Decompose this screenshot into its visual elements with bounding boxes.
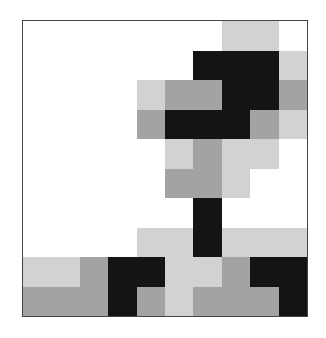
grid-cell (23, 287, 51, 317)
grid-cell (23, 110, 51, 140)
grid-cell (222, 80, 250, 110)
grid-cell (51, 80, 79, 110)
grid-cell (279, 139, 307, 169)
grid-cell (193, 51, 221, 81)
grid-cell (222, 228, 250, 258)
grid-cell (51, 21, 79, 51)
grid-cell (137, 110, 165, 140)
grid-cell (23, 228, 51, 258)
grid-cell (222, 287, 250, 317)
grid-cell (23, 257, 51, 287)
grid-cell (279, 287, 307, 317)
grid-cell (165, 110, 193, 140)
grid-cell (250, 169, 278, 199)
grid-cell (137, 198, 165, 228)
grid-cell (250, 287, 278, 317)
grid-cell (165, 51, 193, 81)
grid-cell (279, 228, 307, 258)
grid-cell (165, 228, 193, 258)
grid-cell (51, 228, 79, 258)
grid-cell (108, 80, 136, 110)
grid-cell (108, 287, 136, 317)
grid-cell (23, 198, 51, 228)
grid-cell (51, 198, 79, 228)
grid-cell (250, 257, 278, 287)
grid-cell (80, 198, 108, 228)
grid-cell (51, 257, 79, 287)
grid-cell (279, 169, 307, 199)
grid-cell (80, 80, 108, 110)
grid-cell (51, 51, 79, 81)
grid-cell (51, 169, 79, 199)
grid-cell (23, 169, 51, 199)
grid-cell (80, 228, 108, 258)
grid-cell (108, 198, 136, 228)
grid-cell (279, 257, 307, 287)
grid-cell (80, 51, 108, 81)
grid-cell (80, 287, 108, 317)
grid-cell (193, 110, 221, 140)
grid-cell (279, 110, 307, 140)
grid-cell (137, 287, 165, 317)
grid-cell (165, 198, 193, 228)
grid-cell (51, 110, 79, 140)
grid-cell (108, 139, 136, 169)
grid-cell (193, 287, 221, 317)
grid-cell (193, 169, 221, 199)
grid-cell (279, 51, 307, 81)
grid-cell (193, 21, 221, 51)
grid-cell (23, 21, 51, 51)
pixel-grid (23, 21, 307, 316)
grid-cell (222, 110, 250, 140)
grid-cell (80, 110, 108, 140)
grid-cell (193, 139, 221, 169)
grid-cell (165, 80, 193, 110)
grid-cell (137, 169, 165, 199)
grid-cell (250, 21, 278, 51)
grid-cell (165, 287, 193, 317)
grid-cell (222, 198, 250, 228)
grid-cell (279, 80, 307, 110)
grid-cell (222, 21, 250, 51)
grid-cell (222, 51, 250, 81)
grid-cell (137, 139, 165, 169)
grid-cell (193, 257, 221, 287)
grid-cell (137, 21, 165, 51)
grid-cell (108, 110, 136, 140)
grid-cell (80, 257, 108, 287)
grid-frame (22, 20, 308, 317)
grid-cell (108, 228, 136, 258)
grid-cell (165, 139, 193, 169)
grid-cell (80, 21, 108, 51)
grid-cell (80, 169, 108, 199)
grid-cell (137, 51, 165, 81)
grid-cell (250, 228, 278, 258)
grid-cell (250, 139, 278, 169)
grid-cell (165, 257, 193, 287)
grid-cell (250, 198, 278, 228)
grid-cell (193, 80, 221, 110)
grid-cell (250, 51, 278, 81)
grid-cell (108, 169, 136, 199)
grid-cell (279, 198, 307, 228)
grid-cell (193, 228, 221, 258)
grid-cell (165, 21, 193, 51)
canvas (0, 0, 326, 338)
grid-cell (165, 169, 193, 199)
grid-cell (23, 51, 51, 81)
grid-cell (108, 21, 136, 51)
grid-cell (222, 169, 250, 199)
grid-cell (51, 287, 79, 317)
grid-cell (23, 80, 51, 110)
grid-cell (137, 257, 165, 287)
grid-cell (250, 110, 278, 140)
grid-cell (108, 257, 136, 287)
grid-cell (222, 139, 250, 169)
grid-cell (193, 198, 221, 228)
grid-cell (51, 139, 79, 169)
grid-cell (137, 228, 165, 258)
grid-cell (222, 257, 250, 287)
grid-cell (279, 21, 307, 51)
grid-cell (80, 139, 108, 169)
grid-cell (250, 80, 278, 110)
